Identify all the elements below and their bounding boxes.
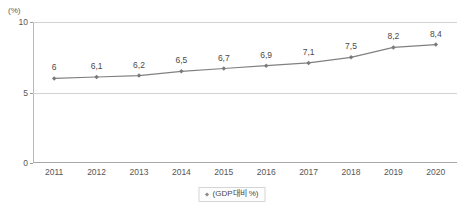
- x-tick-label-2012: 2012: [87, 167, 106, 177]
- y-tick-mark-0: [30, 163, 33, 164]
- data-point-label: 6,7: [218, 53, 230, 63]
- x-tick-label-2016: 2016: [257, 167, 276, 177]
- data-point-marker: [94, 75, 99, 80]
- data-point-marker: [434, 42, 439, 47]
- x-tick-label-2013: 2013: [130, 167, 149, 177]
- data-point-marker: [264, 63, 269, 68]
- y-tick-label-10: 10: [19, 17, 28, 27]
- x-tick-label-2019: 2019: [384, 167, 403, 177]
- data-point-label: 6,5: [175, 55, 187, 65]
- legend-item-label: (GDP대비 %): [213, 190, 259, 198]
- data-point-label: 8,4: [430, 29, 442, 39]
- y-axis-unit-label: (%): [8, 6, 20, 15]
- chart-legend[interactable]: (GDP대비 %): [199, 187, 266, 202]
- data-point-label: 6,2: [133, 60, 145, 70]
- data-point-marker: [391, 45, 396, 50]
- y-axis-tick-labels: 0510: [0, 22, 28, 163]
- series-line-gdp-ratio: [33, 22, 457, 163]
- x-tick-label-2018: 2018: [342, 167, 361, 177]
- y-tick-label-5: 5: [23, 88, 28, 98]
- diamond-marker-icon: [205, 192, 209, 196]
- x-tick-label-2020: 2020: [426, 167, 445, 177]
- data-point-label: 6: [52, 62, 57, 72]
- data-point-label: 6,9: [260, 50, 272, 60]
- x-axis-tick-labels: 2011201220132014201520162017201820192020: [33, 167, 457, 181]
- data-point-marker: [222, 66, 227, 71]
- x-tick-label-2014: 2014: [172, 167, 191, 177]
- data-point-marker: [52, 76, 57, 81]
- line-chart: (%) 0510 66,16,26,56,76,97,17,58,28,4 20…: [0, 0, 464, 214]
- data-point-marker: [349, 55, 354, 60]
- y-tick-label-0: 0: [23, 158, 28, 168]
- data-point-marker: [179, 69, 184, 74]
- data-point-label: 8,2: [387, 31, 399, 41]
- data-point-label: 7,1: [303, 47, 315, 57]
- x-tick-label-2011: 2011: [45, 167, 63, 177]
- plot-area: 66,16,26,56,76,97,17,58,28,4: [33, 22, 457, 163]
- data-point-marker: [306, 61, 311, 66]
- x-tick-label-2017: 2017: [299, 167, 318, 177]
- data-point-label: 7,5: [345, 41, 357, 51]
- x-tick-label-2015: 2015: [214, 167, 233, 177]
- data-point-label: 6,1: [91, 61, 103, 71]
- data-point-marker: [137, 73, 142, 78]
